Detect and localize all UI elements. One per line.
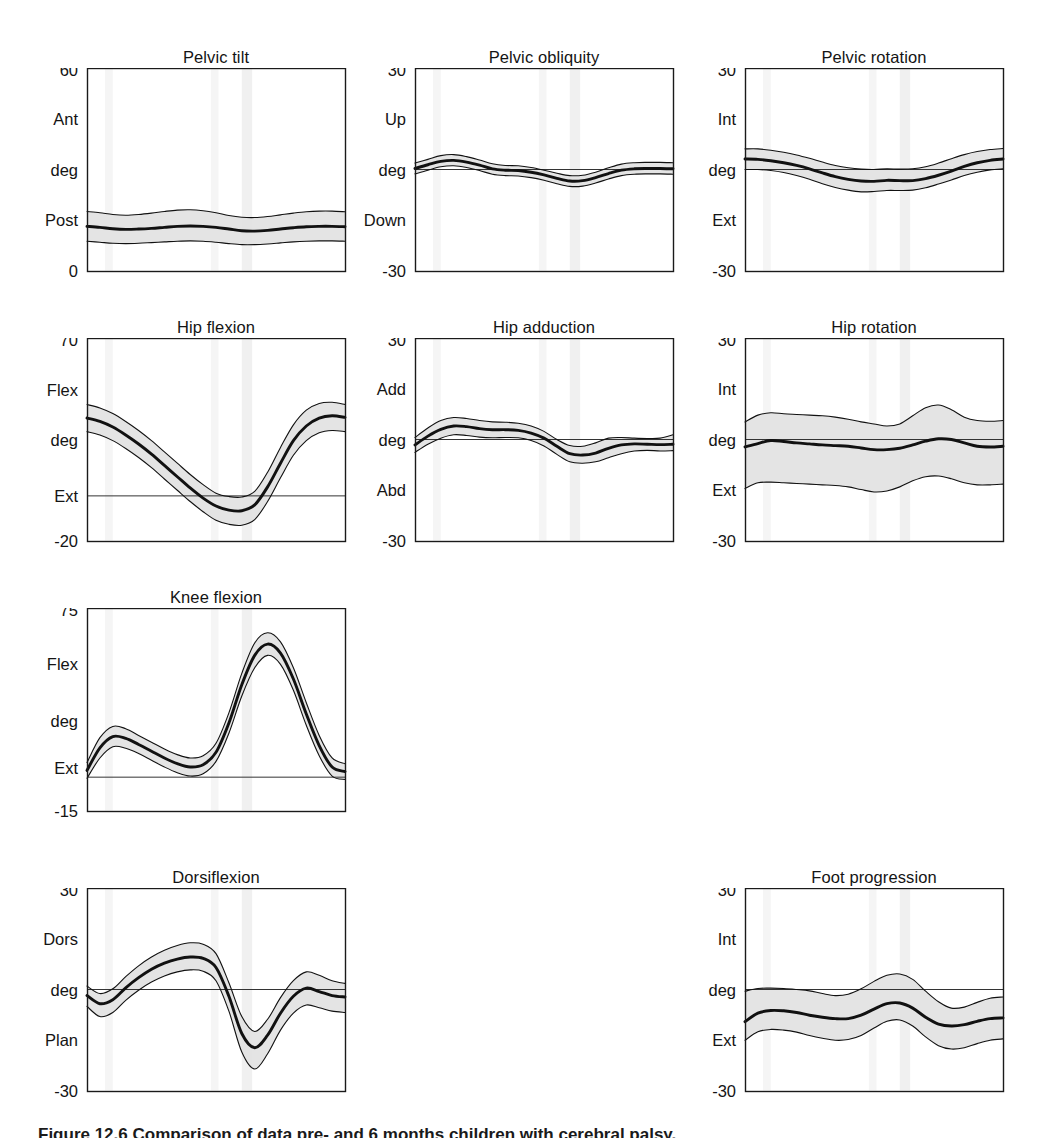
- y-axis-word-label: Ext: [712, 211, 736, 229]
- chart-title-foot-progression: Foot progression: [745, 868, 1003, 887]
- y-axis-max-label: 75: [60, 608, 78, 619]
- chart-svg-pelvic-obliquity: 30-30UpdegDown: [328, 68, 679, 287]
- y-axis-word-label: Ext: [712, 481, 736, 499]
- y-axis-max-label: 30: [60, 888, 78, 899]
- y-axis-max-label: 60: [60, 68, 78, 79]
- y-axis-word-label: deg: [50, 161, 78, 179]
- y-axis-word-label: deg: [708, 431, 736, 449]
- chart-title-knee-flexion: Knee flexion: [87, 588, 345, 607]
- chart-title-hip-flexion: Hip flexion: [87, 318, 345, 337]
- y-axis-max-label: 30: [718, 888, 736, 899]
- y-axis-word-label: Down: [364, 211, 406, 229]
- y-axis-word-label: deg: [708, 981, 736, 999]
- y-axis-word-label: Abd: [377, 481, 406, 499]
- y-axis-min-label: -30: [712, 262, 736, 280]
- y-axis-word-label: deg: [50, 431, 78, 449]
- chart-svg-hip-rotation: 30-30IntdegExt: [658, 338, 1009, 557]
- y-axis-word-label: deg: [50, 981, 78, 999]
- y-axis-word-label: deg: [50, 712, 78, 730]
- y-axis-word-label: Flex: [47, 381, 79, 399]
- y-axis-min-label: -30: [712, 1082, 736, 1100]
- y-axis-word-label: Add: [377, 380, 406, 398]
- y-axis-min-label: -20: [54, 532, 78, 550]
- chart-panel-hip-rotation: Hip rotation30-30IntdegExt: [658, 318, 1009, 561]
- y-axis-min-label: -30: [382, 532, 406, 550]
- chart-title-hip-rotation: Hip rotation: [745, 318, 1003, 337]
- chart-panel-pelvic-tilt: Pelvic tilt600AntdegPost: [0, 48, 351, 291]
- event-band: [105, 609, 113, 811]
- chart-svg-pelvic-tilt: 600AntdegPost: [0, 68, 351, 287]
- chart-svg-hip-adduction: 30-30AdddegAbd: [328, 338, 679, 557]
- y-axis-max-label: 30: [388, 338, 406, 349]
- y-axis-word-label: Up: [385, 110, 406, 128]
- chart-panel-pelvic-rotation: Pelvic rotation30-30IntdegExt: [658, 48, 1009, 291]
- y-axis-word-label: deg: [708, 161, 736, 179]
- chart-title-pelvic-obliquity: Pelvic obliquity: [415, 48, 673, 67]
- chart-panel-hip-adduction: Hip adduction30-30AdddegAbd: [328, 318, 679, 561]
- event-band: [211, 609, 219, 811]
- y-axis-min-label: -30: [54, 1082, 78, 1100]
- chart-panel-knee-flexion: Knee flexion75-15FlexdegExt: [0, 588, 351, 831]
- chart-title-dorsiflexion: Dorsiflexion: [87, 868, 345, 887]
- y-axis-max-label: 30: [388, 68, 406, 79]
- y-axis-min-label: -30: [712, 532, 736, 550]
- y-axis-word-label: Int: [718, 380, 737, 398]
- y-axis-word-label: Ext: [712, 1031, 736, 1049]
- gait-kinematics-figure: Pelvic tilt600AntdegPostPelvic obliquity…: [0, 0, 1050, 1139]
- chart-svg-foot-progression: 30-30IntdegExt: [658, 888, 1009, 1107]
- y-axis-word-label: Plan: [45, 1031, 78, 1049]
- y-axis-word-label: Post: [45, 211, 78, 229]
- y-axis-word-label: Dors: [43, 930, 78, 948]
- chart-svg-dorsiflexion: 30-30DorsdegPlan: [0, 888, 351, 1107]
- chart-panel-pelvic-obliquity: Pelvic obliquity30-30UpdegDown: [328, 48, 679, 291]
- y-axis-min-label: -30: [382, 262, 406, 280]
- y-axis-word-label: deg: [378, 431, 406, 449]
- y-axis-min-label: 0: [69, 262, 78, 280]
- chart-svg-pelvic-rotation: 30-30IntdegExt: [658, 68, 1009, 287]
- figure-caption: Figure 12.6 Comparison of data pre- and …: [38, 1124, 1028, 1138]
- y-axis-word-label: Flex: [47, 655, 79, 673]
- y-axis-word-label: Ant: [53, 110, 78, 128]
- y-axis-word-label: Int: [718, 930, 737, 948]
- y-axis-word-label: Ext: [54, 487, 78, 505]
- chart-title-pelvic-tilt: Pelvic tilt: [87, 48, 345, 67]
- chart-title-hip-adduction: Hip adduction: [415, 318, 673, 337]
- chart-panel-hip-flexion: Hip flexion70-20FlexdegExt: [0, 318, 351, 561]
- y-axis-word-label: Int: [718, 110, 737, 128]
- y-axis-min-label: -15: [54, 802, 78, 820]
- y-axis-word-label: deg: [378, 161, 406, 179]
- y-axis-word-label: Ext: [54, 759, 78, 777]
- y-axis-max-label: 30: [718, 68, 736, 79]
- chart-panel-foot-progression: Foot progression30-30IntdegExt: [658, 868, 1009, 1111]
- chart-svg-hip-flexion: 70-20FlexdegExt: [0, 338, 351, 557]
- y-axis-max-label: 30: [718, 338, 736, 349]
- chart-svg-knee-flexion: 75-15FlexdegExt: [0, 608, 351, 827]
- chart-panel-dorsiflexion: Dorsiflexion30-30DorsdegPlan: [0, 868, 351, 1111]
- chart-title-pelvic-rotation: Pelvic rotation: [745, 48, 1003, 67]
- y-axis-max-label: 70: [60, 338, 78, 349]
- event-band: [242, 609, 252, 811]
